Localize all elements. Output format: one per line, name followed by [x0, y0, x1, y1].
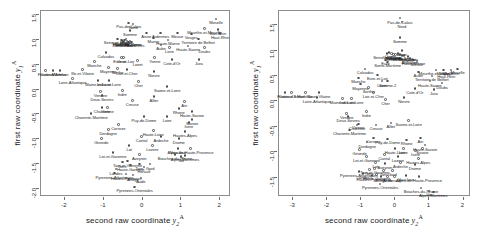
point-label: Cher [381, 102, 390, 106]
point-label: Doubs [436, 86, 448, 90]
point-label: Loire [399, 151, 408, 155]
x-axis-title: second raw coordinatey2A [325, 214, 423, 226]
point-label: Lot-et-Garonne [99, 155, 126, 159]
x-tick-label: -2 [324, 202, 329, 208]
point-label: Calvados [357, 71, 374, 75]
x-tick-label: -1 [358, 202, 363, 208]
point-label: Puy-de-Dome [132, 119, 157, 123]
y-tick-label: 1.0 [31, 39, 37, 47]
y-var-symbol: y [13, 68, 22, 72]
point-label: Loiret [133, 63, 143, 67]
point-label: Alpes-Maritimes [419, 194, 448, 198]
point-label: Meuse [171, 35, 183, 39]
point-label: Seine-Maritime [374, 64, 401, 68]
x-tick-label: 1 [179, 202, 182, 208]
x-axis-title-variable: y2A [173, 216, 185, 225]
point-label: Ille-et-Vilaine [71, 72, 94, 76]
point-label: Somme [393, 40, 407, 44]
y-axis-title-variable: y1A [13, 60, 22, 72]
point-label: Ain [417, 140, 423, 144]
point-label: Puy-de-Dome [375, 141, 400, 145]
y-tick-label: -2.0 [31, 188, 37, 198]
point-label: Cher [134, 84, 143, 88]
x-tick-label: 0 [140, 202, 143, 208]
y-axis-title-text: first raw coordinate [251, 74, 260, 146]
point-label: Rhone [401, 142, 413, 146]
x-tick [360, 197, 361, 200]
point-label: Nord [398, 25, 407, 29]
point-label: Creuse [370, 127, 383, 131]
point-label: Yonne [149, 60, 160, 64]
y-tick-label: 1.0 [269, 50, 275, 58]
point-label: Indre [118, 93, 127, 97]
point-label: Nievre [398, 100, 410, 104]
point-label: Alpes-de-Haute-Provence [396, 179, 442, 183]
point-label: Indre [362, 114, 371, 118]
point-label: Loire-Atlantique [59, 81, 87, 85]
y-tick-label: 0.0 [269, 100, 275, 108]
y-tick-label: 0.5 [31, 64, 37, 72]
point-label: Creuse [126, 103, 139, 107]
x-axis-title-variable: y2A [412, 216, 424, 225]
point-label: Eure-et-Loir [113, 60, 134, 64]
point-label: Finistere [277, 95, 292, 99]
point-label: Morbihan [52, 73, 69, 77]
x-var-superscript: A [419, 214, 424, 220]
y-tick-label: -0.5 [269, 126, 275, 136]
point-label: Hautes-Alpes [406, 161, 430, 165]
x-axis-title: second raw coordinatey2A [86, 214, 184, 226]
point-label: Loir-et-Cher [363, 95, 384, 99]
x-tick [292, 197, 293, 200]
point-label: Pyrenees-Orientales [116, 189, 152, 193]
y-axis-title: first raw coordinatey1A [11, 60, 23, 145]
point-label: Jura [195, 62, 203, 66]
y-var-symbol: y [251, 68, 260, 72]
point-label: Aveyron [132, 157, 147, 161]
point-label: Drome [173, 141, 185, 145]
point-label: Nievre [148, 74, 160, 78]
point-label: Loire [165, 50, 174, 54]
point-label: Doubs [199, 50, 211, 54]
point-label: Deux-Sevres [90, 98, 113, 102]
point-label: Loire-Atlantique [303, 100, 331, 104]
point-label: Allier [387, 125, 396, 129]
point-label: Drome [409, 167, 421, 171]
y-tick-label: 0.0 [31, 89, 37, 97]
point-label: Loire [163, 119, 172, 123]
point-label: Haute-Saone [176, 48, 200, 52]
point-label: Lot [126, 148, 132, 152]
point-label: Haut-Rhin [211, 36, 229, 40]
point-label: Lozere [392, 159, 404, 163]
x-tick [142, 197, 143, 200]
point-label: Charente-Maritime [75, 116, 108, 120]
point-label: Alpes-Maritimes [171, 158, 200, 162]
y-tick-label: -1.0 [31, 138, 37, 148]
point-label: Saone-et-Loire [396, 123, 422, 127]
point-label: Charente-Maritime [333, 132, 366, 136]
x-tick [219, 197, 220, 200]
point-label: Meuse [411, 63, 423, 67]
point-label: Calvados [98, 55, 115, 59]
x-tick-label: 0 [393, 202, 396, 208]
y-var-subscript: 1 [255, 65, 261, 68]
x-axis-title-text: second raw coordinate [86, 216, 171, 225]
point-label: Cantal [136, 139, 148, 143]
point-label: Dordogne [358, 145, 376, 149]
y-axis-title: first raw coordinatey1A [249, 60, 261, 145]
point-label: Saone-et-Loire [154, 89, 180, 93]
y-axis-title-text: first raw coordinate [13, 74, 22, 146]
scatter-panel-right: -3-2-10121.51.00.50.0-0.5-1.0-1.5Pas-de-… [238, 0, 476, 238]
y-tick-label: -1.5 [31, 163, 37, 173]
point-label: Gironde [94, 141, 108, 145]
point-label: Cote-d'Or [163, 62, 180, 66]
point-label: Eure-et-Loir [367, 77, 388, 81]
y-tick-label: 0.5 [269, 75, 275, 83]
x-tick [64, 197, 65, 200]
point-label: Ardeche [154, 139, 169, 143]
point-label: Somme-2 [379, 84, 396, 88]
point-label: Moselle [209, 21, 223, 25]
scatter-panel-left: -2-10121.51.00.50.0-0.5-1.0-1.5-2.0Pas-d… [0, 0, 238, 238]
y-tick-label: -1.0 [269, 151, 275, 161]
y-axis-title-variable: y1A [251, 60, 260, 72]
x-tick [394, 197, 395, 200]
